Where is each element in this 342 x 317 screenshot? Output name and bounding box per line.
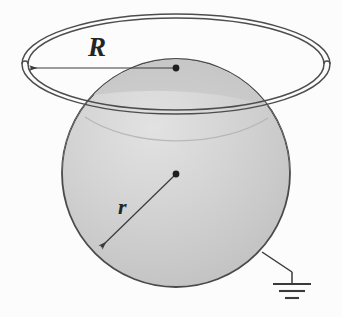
- sphere-center-dot: [173, 171, 180, 178]
- ring-radius-label: R: [88, 34, 106, 61]
- diagram-canvas: [0, 0, 342, 317]
- ground-symbol: [262, 252, 311, 298]
- physics-diagram-figure: R r: [0, 0, 342, 317]
- sphere-radius-label: r: [118, 196, 127, 218]
- ground-lead-wire: [262, 252, 292, 272]
- ring-back-arc: [22, 14, 330, 64]
- ring-center-dot: [173, 65, 180, 72]
